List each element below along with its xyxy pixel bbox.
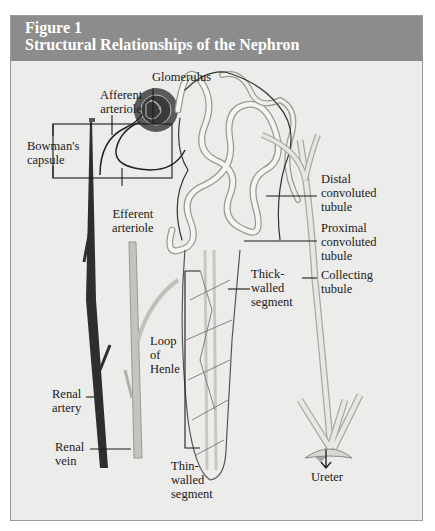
- label-afferent-arteriole: Afferent arteriole: [100, 88, 142, 116]
- label-renal-artery: Renal artery: [52, 387, 81, 415]
- label-ureter: Ureter: [311, 470, 343, 484]
- label-bowmans-capsule: Bowman's capsule: [27, 139, 79, 167]
- renal-artery-drawing: [84, 118, 110, 468]
- loop-of-henle-drawing: [182, 250, 240, 480]
- label-proximal-convoluted-tubule: Proximal convoluted tubule: [321, 221, 377, 263]
- label-loop-of-henle: Loop of Henle: [150, 334, 180, 376]
- label-distal-convoluted-tubule: Distal convoluted tubule: [321, 172, 377, 214]
- label-thick-walled-segment: Thick- walled segment: [251, 267, 293, 309]
- label-renal-vein: Renal vein: [55, 440, 84, 468]
- label-efferent-arteriole: Efferent arteriole: [112, 207, 154, 235]
- label-collecting-tubule: Collecting tubule: [321, 268, 373, 296]
- convoluted-tubules-drawing: [170, 72, 298, 251]
- label-glomerulus: Glomerulus: [152, 70, 211, 84]
- label-thin-walled-segment: Thin- walled segment: [171, 459, 213, 501]
